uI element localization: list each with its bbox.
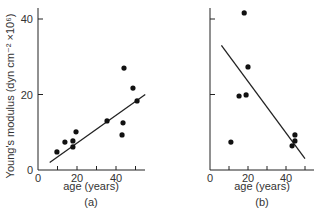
y-tick-label: 40 xyxy=(21,13,33,25)
data-point xyxy=(62,139,67,144)
data-point xyxy=(120,120,125,125)
x-axis-label: age (years) xyxy=(63,180,119,192)
data-point xyxy=(242,10,247,15)
data-point xyxy=(236,93,241,98)
y-tick-label: 0 xyxy=(27,164,33,176)
data-point xyxy=(228,139,233,144)
regression-line xyxy=(50,95,146,163)
data-point xyxy=(104,118,109,123)
y-axis-label: Young's modulus (dyn cm⁻² ×10⁶) xyxy=(4,14,16,179)
panel-label: (a) xyxy=(84,196,97,208)
data-point xyxy=(292,132,297,137)
figure: 0204002040age (years)(a)Young's modulus … xyxy=(0,0,320,216)
data-point xyxy=(119,132,124,137)
data-point xyxy=(73,129,78,134)
data-point xyxy=(54,149,59,154)
panel-b: 02040age (years)(b) xyxy=(207,8,314,208)
data-point xyxy=(289,143,294,148)
x-tick-label: 0 xyxy=(207,172,213,184)
y-tick-label: 20 xyxy=(21,89,33,101)
data-point xyxy=(121,65,126,70)
data-point xyxy=(70,138,75,143)
panel-label: (b) xyxy=(255,196,268,208)
x-axis-label: age (years) xyxy=(234,180,290,192)
data-point xyxy=(130,85,135,90)
data-point xyxy=(70,144,75,149)
data-point xyxy=(134,98,139,103)
data-point xyxy=(292,138,297,143)
data-point xyxy=(245,64,250,69)
panel-a: 0204002040age (years)(a)Young's modulus … xyxy=(4,8,145,208)
x-tick-label: 0 xyxy=(35,172,41,184)
data-point xyxy=(244,92,249,97)
